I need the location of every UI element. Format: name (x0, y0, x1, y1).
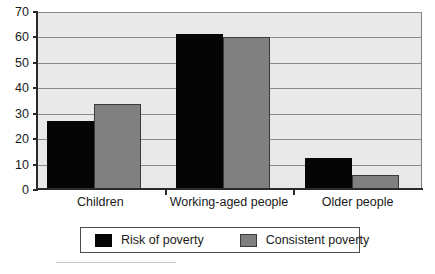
y-axis-tick-label: 60 (15, 31, 29, 44)
legend-entry: Risk of poverty (95, 228, 204, 252)
y-axis-tick (33, 62, 38, 64)
bar (223, 37, 270, 190)
y-axis-tick (33, 138, 38, 140)
y-axis (36, 12, 38, 190)
y-axis-tick (33, 164, 38, 166)
x-axis-category-label: Working-aged people (165, 196, 294, 209)
plot-region (36, 12, 422, 190)
bar-chart-figure: 706050403020100 ChildrenWorking-aged peo… (0, 0, 435, 274)
y-axis-tick-label: 0 (22, 184, 29, 197)
y-axis-tick (33, 36, 38, 38)
bar (176, 34, 223, 190)
x-axis-category-label: Children (36, 196, 165, 209)
y-axis-tick-label: 40 (15, 82, 29, 95)
x-axis (36, 188, 423, 190)
chart-legend: Risk of povertyConsistent poverty (80, 227, 360, 253)
legend-label: Consistent poverty (266, 234, 370, 247)
legend-label: Risk of poverty (121, 234, 204, 247)
bar (305, 158, 352, 190)
legend-entry: Consistent poverty (240, 228, 370, 252)
legend-swatch-icon (95, 234, 112, 247)
gridline (36, 12, 422, 13)
y-axis-tick-label: 30 (15, 108, 29, 121)
bar (47, 121, 94, 190)
y-axis-tick (33, 11, 38, 13)
x-axis-tick (293, 190, 295, 195)
bar (94, 104, 141, 190)
y-axis-tick-label: 20 (15, 133, 29, 146)
y-axis-tick-label: 50 (15, 57, 29, 70)
scan-artifact (56, 262, 176, 263)
legend-swatch-icon (240, 234, 257, 247)
y-axis-tick (33, 113, 38, 115)
y-axis-tick-label: 10 (15, 159, 29, 172)
y-axis-tick-label: 70 (15, 6, 29, 19)
x-axis-category-label: Older people (293, 196, 422, 209)
x-axis-tick (165, 190, 167, 195)
y-axis-tick (33, 87, 38, 89)
